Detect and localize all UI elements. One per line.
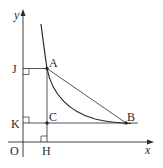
right-angle-K-icon: [23, 117, 29, 123]
coordinate-diagram: y x O A B C H J K: [0, 0, 163, 168]
right-angle-H-icon: [41, 136, 47, 142]
label-B: B: [127, 110, 135, 124]
label-C: C: [49, 110, 57, 124]
label-J: J: [12, 62, 17, 76]
origin-label: O: [10, 144, 19, 158]
x-axis-label: x: [144, 143, 151, 157]
label-A: A: [49, 56, 58, 70]
y-axis-label: y: [13, 8, 20, 22]
label-K: K: [11, 117, 20, 131]
y-axis-arrow-icon: [21, 9, 26, 16]
right-angle-J-icon: [23, 69, 29, 75]
label-H: H: [42, 144, 51, 158]
